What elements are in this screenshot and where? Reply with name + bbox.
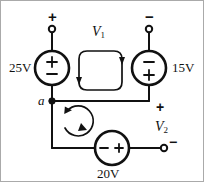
- voltage-v1-subscript: 1: [101, 30, 106, 40]
- voltage-v1-symbol: V: [92, 24, 101, 39]
- mesh-loop-top: [76, 51, 125, 90]
- mesh-loop-bottom: [62, 106, 94, 136]
- node-a-label: a: [38, 94, 45, 107]
- terminal-top-right-sign: −: [145, 9, 154, 24]
- voltage-v2-subscript: 2: [164, 125, 169, 135]
- voltage-v2-symbol: V: [155, 119, 164, 134]
- circuit-diagram: + − 25V 15V V1 a + V2 − 20V: [0, 0, 204, 182]
- terminal-top-left-dot: [49, 26, 55, 32]
- terminal-v2-minus-sign: −: [169, 135, 177, 149]
- voltage-v2-label: V2: [155, 120, 168, 134]
- voltage-v1-label: V1: [92, 25, 105, 39]
- terminal-top-right-dot: [146, 26, 152, 32]
- voltage-source-25v-label: 25V: [9, 61, 31, 74]
- terminal-v2-minus-dot: [161, 145, 167, 151]
- terminal-top-left-sign: +: [48, 9, 57, 24]
- node-a-junction-dot: [49, 98, 55, 104]
- terminal-v2-plus-sign: +: [156, 100, 164, 114]
- voltage-source-15v-label: 15V: [172, 61, 194, 74]
- voltage-source-20v-label: 20V: [97, 167, 119, 180]
